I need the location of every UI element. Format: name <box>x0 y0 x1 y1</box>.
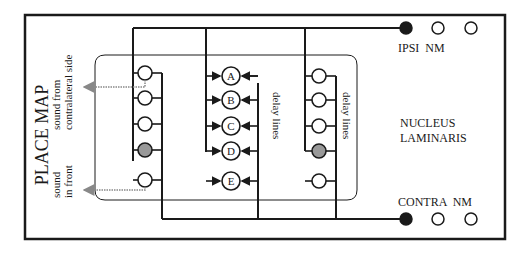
delay-lines-label-1: delay lines <box>271 92 283 139</box>
contra-nm-cells <box>400 213 477 225</box>
contra-axon <box>162 73 406 219</box>
place-map-output-arrows <box>84 80 145 190</box>
detector-d: D <box>227 145 235 157</box>
front-label-1: sound <box>50 171 62 198</box>
place-map-title: PLACE MAP <box>32 85 52 186</box>
detector-c: C <box>227 120 234 132</box>
detector-labels: A B C D E <box>227 70 235 187</box>
ipsi-nm-label: IPSI NM <box>398 41 445 55</box>
delay-lines-label-2: delay lines <box>341 92 353 139</box>
left-neuron-column <box>133 66 162 187</box>
ipsi-nm-cells <box>400 22 477 34</box>
nucleus-label-line1: NUCLEUS <box>400 116 455 130</box>
front-label-2: in front <box>62 165 74 198</box>
right-neuron-column <box>305 69 336 188</box>
detector-e: E <box>228 175 235 187</box>
jeffress-model-diagram: A B C D E IPSI NM CONTRA NM NUCLEUS LAMI… <box>0 0 512 260</box>
detector-a: A <box>227 70 235 82</box>
detector-b: B <box>227 94 234 106</box>
contra-nm-label: CONTRA NM <box>398 195 472 209</box>
contralateral-label-1: sound from <box>50 79 62 130</box>
ipsi-axon <box>133 28 406 161</box>
nucleus-label-line2: LAMINARIS <box>400 131 467 145</box>
contralateral-label-2: contralateral side <box>62 54 74 130</box>
